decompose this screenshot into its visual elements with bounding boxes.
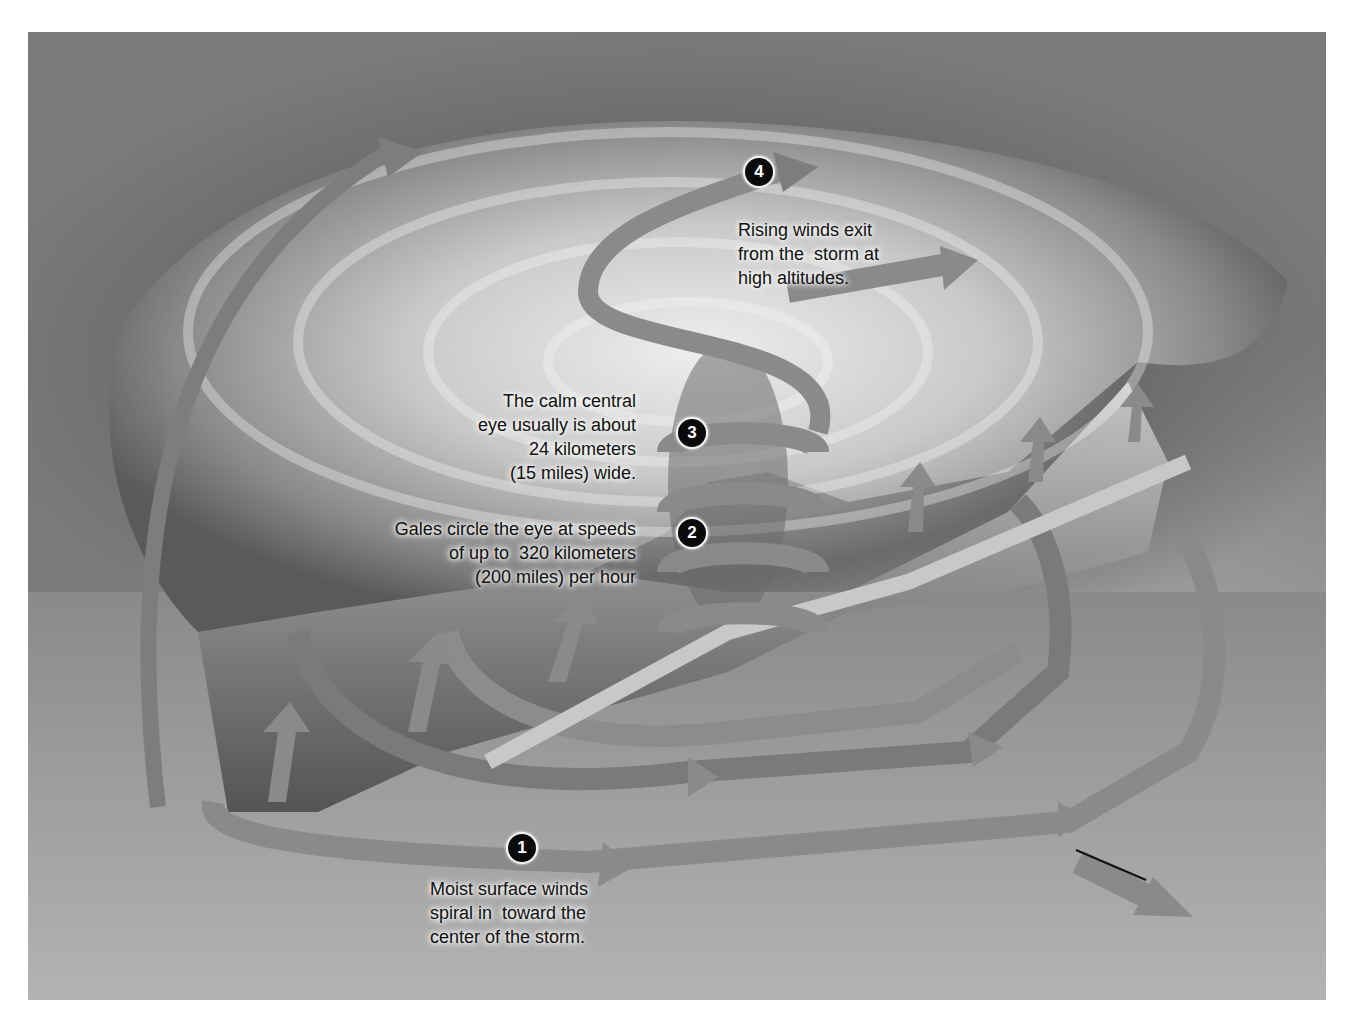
callout-2-line-3: (200 miles) per hour <box>475 567 636 587</box>
hurricane-artwork <box>28 32 1326 1000</box>
callout-3-line-4: (15 miles) wide. <box>510 463 636 483</box>
callout-badge-2: 2 <box>676 517 708 549</box>
callout-badge-4: 4 <box>743 156 775 188</box>
callout-3-line-3: 24 kilometers <box>529 439 636 459</box>
callout-1-line-3: center of the storm. <box>430 927 585 947</box>
callout-1-line-2: spiral in toward the <box>430 903 586 923</box>
storm-eye <box>668 342 788 622</box>
callout-3-text: The calm central eye usually is about 24… <box>408 389 636 485</box>
callout-4-text: Rising winds exit from the storm at high… <box>738 218 879 290</box>
callout-2-line-1: Gales circle the eye at speeds <box>395 519 636 539</box>
callout-2-line-2: of up to 320 kilometers <box>449 543 636 563</box>
hurricane-illustration: 4 Rising winds exit from the storm at hi… <box>28 32 1326 1000</box>
callout-3-line-1: The calm central <box>503 391 636 411</box>
callout-2-text: Gales circle the eye at speeds of up to … <box>328 517 636 589</box>
callout-badge-1: 1 <box>506 832 538 864</box>
callout-4-line-3: high altitudes. <box>738 268 849 288</box>
callout-3-line-2: eye usually is about <box>478 415 636 435</box>
callout-4-line-1: Rising winds exit <box>738 220 872 240</box>
callout-1-line-1: Moist surface winds <box>430 879 588 899</box>
callout-1-text: Moist surface winds spiral in toward the… <box>430 877 588 949</box>
callout-4-line-2: from the storm at <box>738 244 879 264</box>
callout-badge-3: 3 <box>676 417 708 449</box>
